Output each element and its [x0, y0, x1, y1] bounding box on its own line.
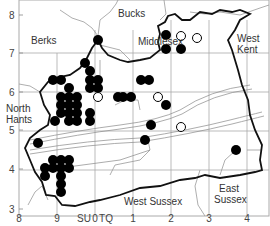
filled-dot — [231, 145, 241, 155]
region-label: East — [219, 183, 239, 194]
filled-dot — [126, 92, 136, 102]
filled-dot — [56, 187, 66, 197]
filled-dot — [85, 66, 95, 76]
map-canvas: BucksBerksMiddlesexWestKentNorthHantsWes… — [0, 0, 270, 226]
filled-dot — [113, 92, 123, 102]
region-label: Sussex — [214, 194, 247, 205]
region-label: Middlesex — [138, 36, 183, 47]
x-tick-label: 1 — [130, 213, 136, 224]
x-tick-label: 4 — [244, 213, 250, 224]
open-dot — [154, 93, 163, 102]
y-tick-label: 3 — [9, 204, 15, 215]
y-tick-label: 7 — [9, 48, 15, 59]
region-label: Bucks — [118, 8, 145, 19]
filled-dot — [50, 116, 60, 126]
open-dot — [177, 123, 186, 132]
filled-dot — [56, 75, 66, 85]
region-label: Berks — [31, 35, 57, 46]
filled-dot — [140, 135, 150, 145]
region-label: Kent — [237, 44, 258, 55]
y-tick-label: 6 — [9, 87, 15, 98]
open-dot — [193, 34, 202, 43]
y-tick-label: 8 — [9, 10, 15, 21]
x-tick-label: 2 — [168, 213, 174, 224]
distribution-map: BucksBerksMiddlesexWestKentNorthHantsWes… — [0, 0, 270, 226]
filled-dot — [146, 120, 156, 130]
y-tick-label: 5 — [9, 125, 15, 136]
region-label: West Sussex — [124, 196, 182, 207]
filled-dot — [85, 116, 95, 126]
filled-dot — [33, 138, 43, 148]
x-tick-label: 8 — [16, 213, 22, 224]
filled-dot — [72, 116, 82, 126]
x-tick-label: 0 — [92, 213, 98, 224]
region-label: North — [6, 103, 30, 114]
region-label: West — [237, 33, 260, 44]
filled-dot — [161, 100, 171, 110]
filled-dot — [64, 163, 74, 173]
x-tick-label: SU — [77, 213, 91, 224]
filled-dot — [93, 35, 103, 45]
x-tick-label: 3 — [206, 213, 212, 224]
y-tick-label: 4 — [9, 164, 15, 175]
region-label: Hants — [6, 114, 32, 125]
filled-dot — [93, 75, 103, 85]
filled-dot — [64, 83, 74, 93]
open-dot — [94, 93, 103, 102]
x-tick-label: TQ — [99, 213, 113, 224]
filled-record-dots — [33, 30, 241, 197]
x-axis-ticks: 89SU0TQ1234 — [16, 213, 250, 224]
filled-dot — [56, 108, 66, 118]
x-tick-label: 9 — [54, 213, 60, 224]
filled-dot — [40, 171, 50, 181]
filled-dot — [144, 75, 154, 85]
